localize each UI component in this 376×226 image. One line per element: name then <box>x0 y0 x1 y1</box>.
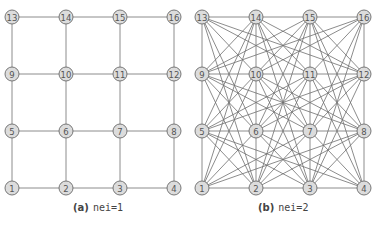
caption-a-text: nei=1 <box>93 202 123 213</box>
node-15: 15 <box>113 10 127 24</box>
node-14: 14 <box>59 10 73 24</box>
node-7: 7 <box>303 124 317 138</box>
node-7: 7 <box>113 124 127 138</box>
node-label: 10 <box>251 70 262 80</box>
node-label: 9 <box>9 70 14 80</box>
node-label: 16 <box>169 13 180 23</box>
node-9: 9 <box>5 67 19 81</box>
edges-a <box>12 17 174 188</box>
caption-a: (a)nei=1 <box>73 202 123 213</box>
node-9: 9 <box>195 67 209 81</box>
caption-b: (b)nei=2 <box>258 202 308 213</box>
node-1: 1 <box>195 181 209 195</box>
node-10: 10 <box>59 67 73 81</box>
node-11: 11 <box>113 67 127 81</box>
node-label: 9 <box>199 70 204 80</box>
node-8: 8 <box>167 124 181 138</box>
caption-b-text: nei=2 <box>278 202 308 213</box>
node-3: 3 <box>303 181 317 195</box>
node-16: 16 <box>357 10 371 24</box>
node-13: 13 <box>5 10 19 24</box>
node-label: 1 <box>199 184 204 194</box>
node-6: 6 <box>59 124 73 138</box>
node-label: 11 <box>305 70 316 80</box>
node-12: 12 <box>167 67 181 81</box>
node-label: 11 <box>115 70 126 80</box>
node-label: 5 <box>199 127 204 137</box>
graph-panel-b: 12345678910111213141516 <box>195 10 371 195</box>
node-1: 1 <box>5 181 19 195</box>
lattice-diagram: 1234567891011121314151612345678910111213… <box>0 0 376 226</box>
node-label: 7 <box>307 127 312 137</box>
graph-panel-a: 12345678910111213141516 <box>5 10 181 195</box>
node-label: 2 <box>63 184 68 194</box>
node-label: 13 <box>197 13 208 23</box>
node-label: 2 <box>253 184 258 194</box>
node-label: 4 <box>361 184 366 194</box>
node-2: 2 <box>59 181 73 195</box>
node-label: 3 <box>117 184 122 194</box>
node-label: 13 <box>7 13 18 23</box>
node-label: 15 <box>115 13 126 23</box>
node-label: 12 <box>169 70 180 80</box>
node-8: 8 <box>357 124 371 138</box>
node-label: 6 <box>63 127 68 137</box>
node-14: 14 <box>249 10 263 24</box>
caption-b-label: (b) <box>258 202 274 213</box>
node-label: 1 <box>9 184 14 194</box>
node-11: 11 <box>303 67 317 81</box>
node-label: 5 <box>9 127 14 137</box>
edges-b <box>202 17 364 188</box>
node-label: 14 <box>61 13 72 23</box>
node-label: 8 <box>171 127 176 137</box>
node-12: 12 <box>357 67 371 81</box>
node-label: 15 <box>305 13 316 23</box>
node-label: 4 <box>171 184 176 194</box>
node-label: 8 <box>361 127 366 137</box>
node-label: 14 <box>251 13 262 23</box>
node-label: 10 <box>61 70 72 80</box>
node-4: 4 <box>167 181 181 195</box>
node-10: 10 <box>249 67 263 81</box>
node-5: 5 <box>5 124 19 138</box>
caption-a-label: (a) <box>73 202 89 213</box>
node-13: 13 <box>195 10 209 24</box>
node-label: 6 <box>253 127 258 137</box>
node-label: 16 <box>359 13 370 23</box>
node-5: 5 <box>195 124 209 138</box>
node-15: 15 <box>303 10 317 24</box>
node-16: 16 <box>167 10 181 24</box>
node-label: 12 <box>359 70 370 80</box>
node-2: 2 <box>249 181 263 195</box>
node-4: 4 <box>357 181 371 195</box>
node-6: 6 <box>249 124 263 138</box>
node-label: 7 <box>117 127 122 137</box>
node-label: 3 <box>307 184 312 194</box>
node-3: 3 <box>113 181 127 195</box>
